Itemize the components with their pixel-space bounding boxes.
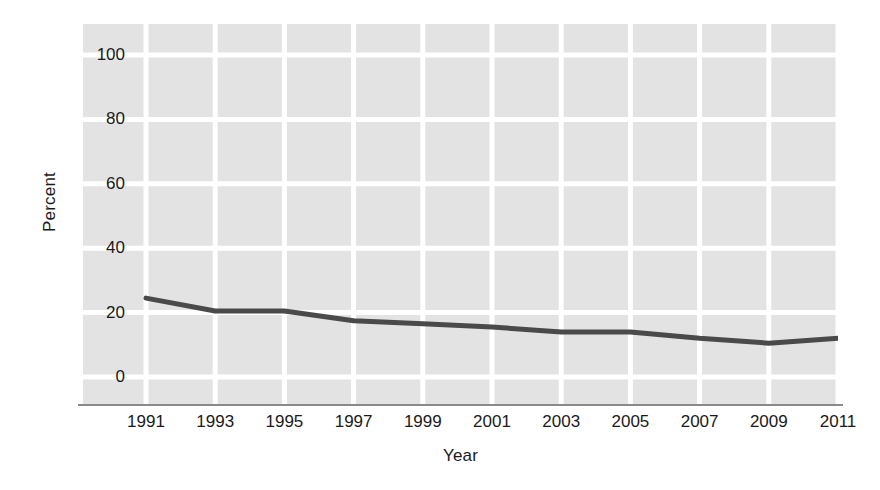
- x-axis-tick-label: 1993: [196, 412, 234, 432]
- x-axis-tick-label: 2001: [473, 412, 511, 432]
- plot-svg: [83, 24, 838, 404]
- x-axis-tick-label: 1999: [404, 412, 442, 432]
- x-axis-tick-label: 2009: [750, 412, 788, 432]
- x-axis-tick-label: 2005: [611, 412, 649, 432]
- x-axis-tick-label: 1997: [335, 412, 373, 432]
- x-axis-tick-label: 2007: [681, 412, 719, 432]
- plot-background: [83, 24, 838, 404]
- x-axis-tick-label: 2011: [820, 412, 857, 432]
- x-axis-tick-label: 1995: [265, 412, 303, 432]
- chart-figure: Percent 020406080100 1991199319951997199…: [0, 0, 880, 490]
- x-axis-tick-label: 2003: [542, 412, 580, 432]
- x-axis-tick-labels: 1991199319951997199920012003200520072009…: [83, 412, 838, 442]
- y-axis-title-text: Percent: [40, 172, 60, 232]
- y-axis-title: Percent: [0, 0, 80, 404]
- plot-area: [83, 24, 838, 404]
- x-axis-line: [78, 404, 843, 406]
- x-axis-title: Year: [83, 446, 838, 466]
- x-axis-tick-label: 1991: [127, 412, 165, 432]
